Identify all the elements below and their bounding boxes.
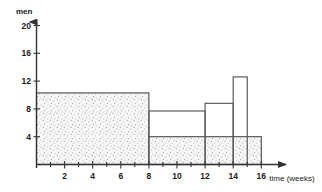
planned-manpower-bar (37, 93, 149, 165)
time-axis-tick-label: 4 (90, 171, 95, 181)
men-axis-label: men (16, 7, 33, 16)
time-axis-label: time (weeks) (269, 174, 315, 183)
men-axis-tick-label: 8 (26, 104, 31, 114)
men-axis-tick-labels: 48121620 (22, 21, 32, 142)
time-axis-tick-label: 2 (62, 171, 67, 181)
time-axis-tick-label: 10 (172, 171, 182, 181)
time-axis-tick-label: 8 (147, 171, 152, 181)
men-axis-tick-label: 16 (22, 48, 32, 58)
chart-canvas: 48121620 246810121416 men time (weeks) (0, 0, 322, 192)
time-axis-tick-label: 6 (118, 171, 123, 181)
time-axis-tick-label: 14 (228, 171, 238, 181)
men-axis-tick-label: 20 (22, 21, 32, 31)
time-axis-tick-label: 16 (257, 171, 267, 181)
manpower-histogram-chart: 48121620 246810121416 men time (weeks) (0, 0, 322, 192)
plot-area (37, 77, 262, 165)
men-axis-tick-label: 4 (26, 132, 31, 142)
time-axis-tick-label: 12 (200, 171, 210, 181)
time-axis-tick-labels: 246810121416 (62, 171, 266, 181)
men-axis-tick-label: 12 (22, 76, 32, 86)
